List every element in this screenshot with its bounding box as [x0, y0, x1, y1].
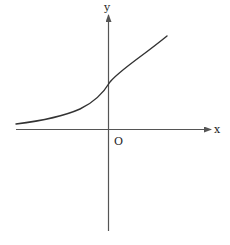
x-axis-label: x [214, 123, 221, 136]
exponential-curve [16, 36, 167, 124]
y-axis-label: y [103, 1, 111, 14]
coordinate-graph: y x O [0, 0, 230, 245]
origin-label: O [114, 135, 123, 148]
